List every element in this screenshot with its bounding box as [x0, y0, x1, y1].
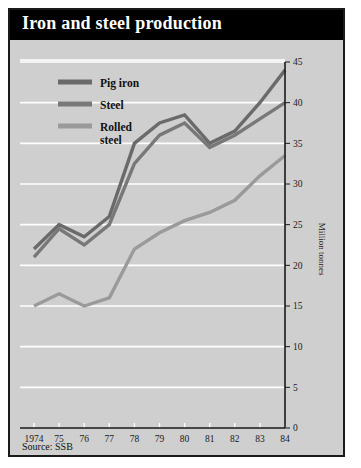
svg-text:45: 45: [293, 57, 303, 67]
svg-text:79: 79: [155, 434, 165, 444]
svg-text:30: 30: [293, 179, 303, 189]
svg-text:Steel: Steel: [100, 99, 124, 111]
svg-text:81: 81: [205, 434, 215, 444]
panel-title-bar: Iron and steel production: [10, 10, 343, 40]
svg-text:82: 82: [230, 434, 240, 444]
source-note: Source: SSB: [22, 441, 73, 452]
svg-text:25: 25: [293, 220, 303, 230]
line-chart: 051015202530354045 197475767778798081828…: [10, 40, 343, 455]
page-title: Iron and steel production: [22, 13, 222, 34]
svg-text:15: 15: [293, 301, 303, 311]
svg-text:Pig iron: Pig iron: [100, 77, 140, 90]
svg-text:10: 10: [293, 342, 303, 352]
y-axis-label: Million tonnes: [317, 223, 327, 276]
svg-text:78: 78: [130, 434, 140, 444]
svg-text:83: 83: [255, 434, 265, 444]
chart-legend: Pig ironSteelRolledsteel: [58, 77, 140, 147]
axis-lines: [20, 60, 285, 428]
svg-text:80: 80: [180, 434, 190, 444]
svg-text:84: 84: [280, 434, 290, 444]
svg-text:20: 20: [293, 261, 303, 271]
y-axis-ticks: 051015202530354045: [285, 57, 303, 433]
svg-text:steel: steel: [100, 134, 122, 146]
chart-panel: Iron and steel production 05101520253035…: [8, 8, 345, 457]
svg-text:5: 5: [293, 383, 298, 393]
svg-text:0: 0: [293, 423, 298, 433]
svg-text:76: 76: [79, 434, 89, 444]
svg-text:77: 77: [105, 434, 115, 444]
svg-text:35: 35: [293, 139, 303, 149]
svg-text:Rolled: Rolled: [100, 121, 133, 133]
svg-text:40: 40: [293, 98, 303, 108]
chart-plot-area: 051015202530354045 197475767778798081828…: [10, 40, 343, 455]
